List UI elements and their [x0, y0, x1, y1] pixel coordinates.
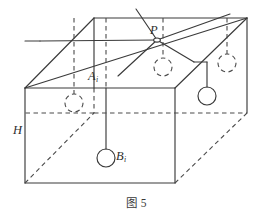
label-height-H-text: H: [13, 123, 22, 137]
figure-container: P Ai Bi H 图 5: [0, 0, 273, 216]
top-face-diagonal: [25, 18, 247, 88]
label-point-A: Ai: [88, 70, 98, 84]
apex-ray-down-left: [118, 40, 157, 76]
label-height-H: H: [13, 124, 22, 137]
label-point-B: Bi: [116, 150, 126, 164]
box-hidden-edge-bottom-left-receding: [25, 113, 94, 183]
label-point-A-text: A: [88, 69, 96, 83]
node-circle-back-right-dashed: [218, 54, 236, 72]
figure-caption: 图 5: [0, 194, 273, 210]
box-hidden-edge-bottom-right-receding: [175, 113, 247, 183]
label-point-A-subscript: i: [96, 75, 98, 84]
node-circle-front-left-dashed: [65, 94, 83, 112]
figure-caption-text: 图 5: [126, 197, 147, 209]
node-circle-mid-dashed: [154, 58, 172, 76]
label-point-B-subscript: i: [124, 155, 126, 164]
cuboid-diagram: [0, 0, 273, 216]
apex-vertex-marker: [154, 38, 161, 42]
label-point-P-text: P: [150, 23, 158, 37]
apex-ray-left: [40, 40, 157, 41]
node-circle-Bi: [97, 149, 115, 167]
label-point-P: P: [150, 24, 158, 37]
node-circle-right-solid: [198, 87, 216, 105]
label-point-B-text: B: [116, 149, 124, 163]
box-edge-top-right-receding: [175, 18, 247, 88]
